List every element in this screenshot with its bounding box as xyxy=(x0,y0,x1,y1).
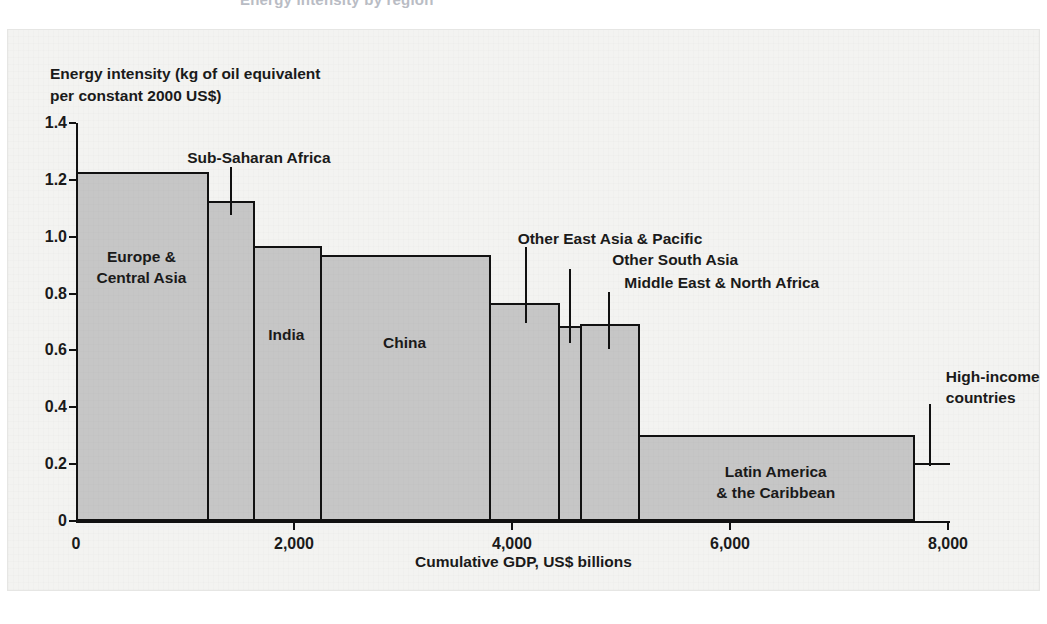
y-tick-label: 0.4 xyxy=(45,398,67,416)
x-tick xyxy=(511,523,513,530)
bar-3 xyxy=(320,255,491,521)
clipped-header-text: Energy intensity by region xyxy=(240,0,434,8)
x-tick xyxy=(293,523,295,530)
bar-2 xyxy=(253,246,323,521)
y-tick xyxy=(69,349,76,351)
y-tick xyxy=(69,236,76,238)
bar-5 xyxy=(558,326,582,521)
x-tick xyxy=(947,523,949,530)
x-tick-label: 4,000 xyxy=(492,535,532,553)
x-tick-label: 6,000 xyxy=(710,535,750,553)
y-tick-label: 0.2 xyxy=(45,455,67,473)
chart-figure: Energy intensity (kg of oil equivalent p… xyxy=(8,30,1039,590)
y-tick xyxy=(69,122,76,124)
x-tick-label: 8,000 xyxy=(928,535,968,553)
bar-6 xyxy=(580,324,641,521)
y-tick-label: 0 xyxy=(58,512,67,530)
bar-label: India xyxy=(268,325,304,346)
bar-label: China xyxy=(383,333,426,354)
y-tick xyxy=(69,520,76,522)
y-tick-label: 0.8 xyxy=(45,285,67,303)
x-tick-label: 0 xyxy=(72,535,81,553)
y-axis-title: Energy intensity (kg of oil equivalent p… xyxy=(50,63,320,107)
plot-area: 00.20.40.60.81.01.21.4 02,0004,0006,0008… xyxy=(76,123,948,521)
callout-high-income-countries-tail xyxy=(913,463,946,465)
callout-other-east-asia-pacific-leader xyxy=(525,247,527,324)
x-axis-title: Cumulative GDP, US$ billions xyxy=(8,553,1039,571)
callout-high-income-countries: High-income countries xyxy=(946,367,1040,409)
x-tick xyxy=(729,523,731,530)
callout-sub-saharan-africa-leader xyxy=(230,167,232,215)
callout-other-south-asia-leader xyxy=(569,269,571,343)
y-tick-label: 1.4 xyxy=(45,114,67,132)
y-tick xyxy=(69,179,76,181)
y-tick xyxy=(69,463,76,465)
y-tick-label: 1.0 xyxy=(45,228,67,246)
callout-high-income-countries-leader xyxy=(929,404,931,465)
bar-label: Europe & Central Asia xyxy=(96,247,186,289)
callout-middle-east-north-africa: Middle East & North Africa xyxy=(624,273,819,294)
y-tick xyxy=(69,293,76,295)
bar-0 xyxy=(76,172,209,521)
x-tick-label: 2,000 xyxy=(274,535,314,553)
x-axis-line xyxy=(76,521,950,523)
y-tick xyxy=(69,406,76,408)
bar-1 xyxy=(207,201,255,521)
bar-label: Latin America & the Caribbean xyxy=(716,462,835,504)
callout-other-east-asia-pacific: Other East Asia & Pacific xyxy=(518,229,703,250)
y-tick-label: 0.6 xyxy=(45,341,67,359)
callout-middle-east-north-africa-leader xyxy=(608,292,610,349)
bar-4 xyxy=(489,303,560,521)
callout-sub-saharan-africa: Sub-Saharan Africa xyxy=(187,148,330,169)
y-tick-label: 1.2 xyxy=(45,171,67,189)
callout-other-south-asia: Other South Asia xyxy=(612,250,738,271)
